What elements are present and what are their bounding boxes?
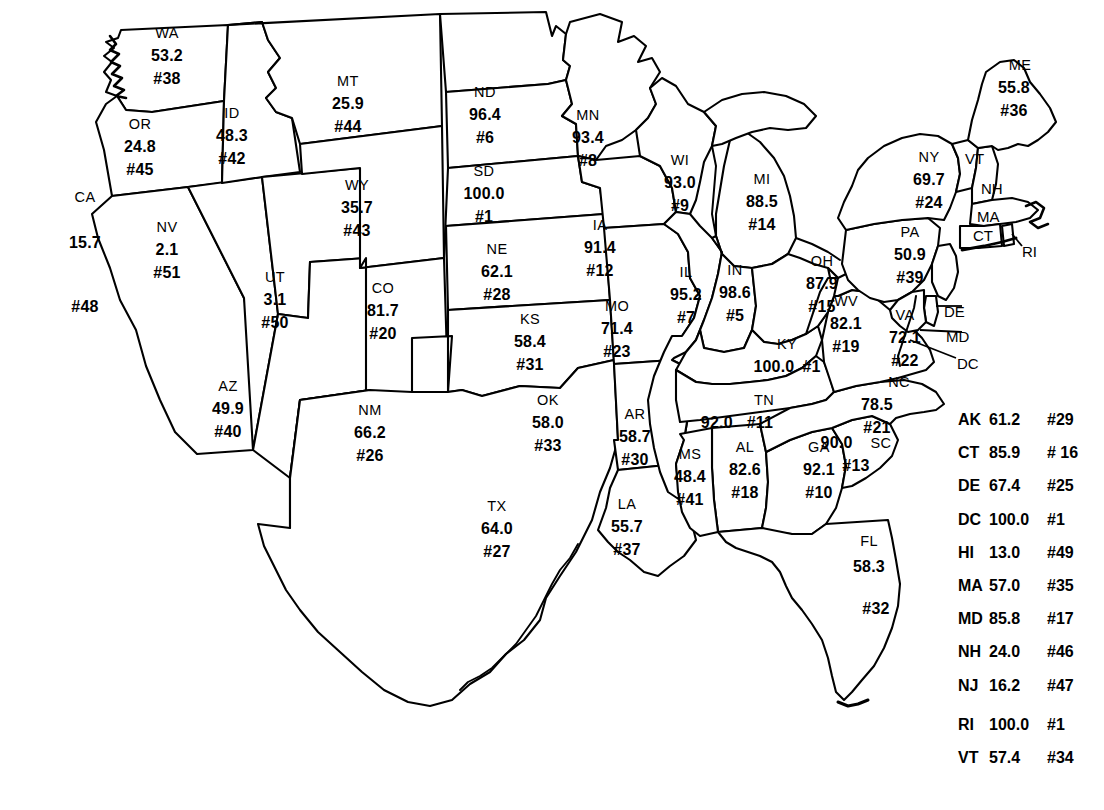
legend-rank-CT: # 16	[1047, 444, 1095, 462]
state-shape-OR	[96, 96, 224, 196]
legend-row-DE: DE67.4#25	[958, 477, 1095, 510]
legend-rank-HI: #49	[1047, 544, 1095, 562]
offmap-state-legend: AK61.2#29CT85.9# 16DE67.4#25DC100.0#1HI1…	[958, 411, 1095, 710]
legend-row-HI: HI13.0#49	[958, 544, 1095, 577]
legend-row-CT: CT85.9# 16	[958, 444, 1095, 477]
state-shape-ND	[440, 12, 570, 92]
legend-rank-RI: #1	[1047, 716, 1095, 734]
lake-erie-detail	[796, 238, 840, 260]
legend-value-NH: 24.0	[989, 643, 1047, 661]
state-shape-TX	[258, 360, 618, 706]
state-shape-AL	[712, 424, 768, 532]
us-map-figure: WA53.2#38OR24.8#45CA15.7#48NV2.1#51ID48.…	[0, 0, 1104, 810]
legend-row-NH: NH24.0#46	[958, 643, 1095, 676]
state-shape-MI-upper	[704, 92, 816, 146]
legend-row-NJ: NJ16.2#47	[958, 677, 1095, 710]
legend-rank-VT: #34	[1047, 749, 1095, 767]
legend-row-DC: DC100.0#1	[958, 511, 1095, 544]
legend-abbr-MA: MA	[958, 577, 989, 595]
offmap-state-legend-secondary: RI100.0#1VT57.4#34	[958, 716, 1095, 782]
state-shape-MA	[970, 198, 1038, 226]
legend-abbr-AK: AK	[958, 411, 989, 429]
legend-value-CT: 85.9	[989, 444, 1047, 462]
state-shape-ME	[968, 60, 1056, 150]
state-shape-NY	[838, 134, 960, 230]
state-shape-FL-keys	[838, 700, 868, 706]
legend-value-VT: 57.4	[989, 749, 1047, 767]
legend-value-AK: 61.2	[989, 411, 1047, 429]
legend-rank-MA: #35	[1047, 577, 1095, 595]
legend-value-MD: 85.8	[989, 610, 1047, 628]
legend-row-MA: MA57.0#35	[958, 577, 1095, 610]
legend-rank-MD: #17	[1047, 610, 1095, 628]
legend-value-HI: 13.0	[989, 544, 1047, 562]
legend-abbr-DC: DC	[958, 511, 989, 529]
state-shape-FL	[718, 520, 900, 700]
legend-rank-NH: #46	[1047, 643, 1095, 661]
legend-rank-DE: #25	[1047, 477, 1095, 495]
legend-value-DE: 67.4	[989, 477, 1047, 495]
legend-abbr-CT: CT	[958, 444, 989, 462]
legend-value-MA: 57.0	[989, 577, 1047, 595]
legend-abbr-MD: MD	[958, 610, 989, 628]
state-shape-SD	[446, 80, 578, 168]
legend-value-NJ: 16.2	[989, 677, 1047, 695]
legend-abbr-DE: DE	[958, 477, 989, 495]
legend-abbr-RI: RI	[958, 716, 989, 734]
state-shape-MI	[716, 132, 796, 268]
state-shape-KS	[446, 214, 610, 310]
legend-rank-DC: #1	[1047, 511, 1095, 529]
state-shape-WA	[104, 25, 228, 112]
legend-abbr-HI: HI	[958, 544, 989, 562]
legend-row-RI: RI100.0#1	[958, 716, 1095, 749]
legend-abbr-NJ: NJ	[958, 677, 989, 695]
legend-row-VT: VT57.4#34	[958, 749, 1095, 782]
legend-abbr-VT: VT	[958, 749, 989, 767]
legend-abbr-NH: NH	[958, 643, 989, 661]
legend-row-MD: MD85.8#17	[958, 610, 1095, 643]
leader-line-MD	[920, 330, 962, 332]
legend-value-DC: 100.0	[989, 511, 1047, 529]
legend-rank-AK: #29	[1047, 411, 1095, 429]
us-states-outline-map	[0, 0, 1104, 810]
state-shape-PA	[842, 218, 940, 302]
legend-value-RI: 100.0	[989, 716, 1047, 734]
legend-row-AK: AK61.2#29	[958, 411, 1095, 444]
legend-rank-NJ: #47	[1047, 677, 1095, 695]
state-shape-NJ	[932, 244, 958, 300]
